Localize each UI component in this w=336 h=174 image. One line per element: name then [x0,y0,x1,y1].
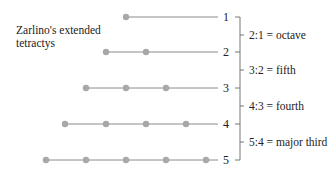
dot [143,49,149,55]
interval-label-3: 4:3 = fourth [249,100,304,112]
dot [43,157,49,163]
row-number-5: 5 [223,153,229,167]
row-number-1: 1 [223,10,229,24]
dot [62,121,68,127]
dot [103,121,109,127]
dot [143,121,149,127]
dot [183,121,189,127]
interval-label-1: 2:1 = octave [249,29,306,41]
row-number-2: 2 [223,45,229,59]
dot [123,157,129,163]
dot [103,49,109,55]
dot [83,157,89,163]
dot [83,85,89,91]
tetractys-diagram: 123452:1 = octave3:2 = fifth4:3 = fourth… [0,0,336,174]
dot [203,157,209,163]
dot [123,14,129,20]
dot [123,85,129,91]
row-number-3: 3 [223,81,229,95]
dot [163,85,169,91]
interval-label-4: 5:4 = major third [249,136,328,149]
row-number-4: 4 [223,117,229,131]
dot [163,157,169,163]
interval-label-2: 3:2 = fifth [249,64,296,76]
